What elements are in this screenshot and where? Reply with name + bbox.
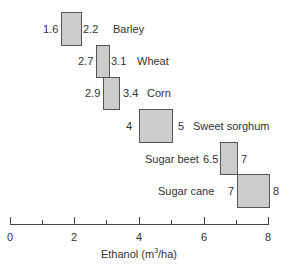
- x-tick-minor: [171, 220, 172, 224]
- range-box-wheat: [96, 45, 110, 78]
- crop-label-wheat: Wheat: [137, 55, 169, 67]
- crop-label-barley: Barley: [113, 23, 144, 35]
- min-label-sweet-sorghum: 4: [126, 120, 132, 132]
- max-label-wheat: 3.1: [111, 55, 126, 67]
- x-tick-label: 8: [258, 231, 278, 243]
- x-axis-title: Ethanol (m3/ha): [0, 247, 278, 260]
- max-label-sugar-beet: 7: [241, 153, 247, 165]
- x-tick-major: [10, 217, 11, 225]
- crop-label-sweet-sorghum: Sweet sorghum: [193, 120, 269, 132]
- range-box-corn: [103, 77, 120, 110]
- min-label-wheat: 2.7: [78, 55, 93, 67]
- x-tick-minor: [106, 220, 107, 224]
- max-label-barley: 2.2: [83, 23, 98, 35]
- max-label-corn: 3.4: [123, 87, 138, 99]
- x-tick-minor: [42, 220, 43, 224]
- x-tick-label: 2: [64, 231, 84, 243]
- x-tick-label: 4: [129, 231, 149, 243]
- x-tick-major: [74, 217, 75, 225]
- x-tick-label: 0: [0, 231, 20, 243]
- min-label-barley: 1.6: [43, 23, 58, 35]
- max-label-sugar-cane: 8: [273, 185, 279, 197]
- range-box-sugar-cane: [237, 174, 270, 208]
- x-tick-label: 6: [194, 231, 214, 243]
- range-box-sweet-sorghum: [139, 109, 173, 143]
- x-tick-major: [268, 217, 269, 225]
- x-axis-title-tail: /ha): [158, 248, 177, 260]
- range-box-barley: [61, 12, 82, 46]
- ethanol-yield-chart: 1.6 2.2 Barley 2.7 3.1 Wheat 2.9 3.4 Cor…: [0, 0, 297, 276]
- crop-label-corn: Corn: [147, 87, 171, 99]
- range-box-sugar-beet: [220, 142, 238, 175]
- x-tick-major: [139, 217, 140, 225]
- min-label-sugar-beet: 6.5: [203, 153, 218, 165]
- crop-label-sugar-cane: Sugar cane: [158, 185, 214, 197]
- min-label-corn: 2.9: [85, 87, 100, 99]
- x-tick-minor: [236, 220, 237, 224]
- min-label-sugar-cane: 7: [228, 185, 234, 197]
- x-tick-major: [204, 217, 205, 225]
- x-axis-title-main: Ethanol (m: [101, 248, 154, 260]
- crop-label-sugar-beet: Sugar beet: [145, 153, 199, 165]
- max-label-sweet-sorghum: 5: [178, 120, 184, 132]
